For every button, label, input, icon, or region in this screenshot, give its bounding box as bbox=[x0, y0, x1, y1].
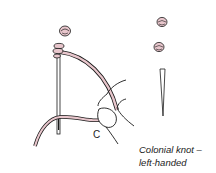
caption: Colonial knot – left-handed bbox=[139, 143, 202, 169]
right-needle bbox=[160, 69, 165, 116]
left-hand bbox=[98, 80, 134, 144]
label-c: C bbox=[93, 129, 100, 140]
right-beads bbox=[154, 17, 167, 51]
caption-line-1: Colonial knot – bbox=[139, 143, 202, 156]
knot-wraps bbox=[53, 43, 64, 58]
caption-line-2: left-handed bbox=[139, 156, 202, 169]
left-knot-bead bbox=[60, 26, 71, 36]
left-needle bbox=[57, 48, 60, 134]
upper-thread bbox=[60, 52, 117, 110]
lower-thread bbox=[35, 117, 100, 146]
